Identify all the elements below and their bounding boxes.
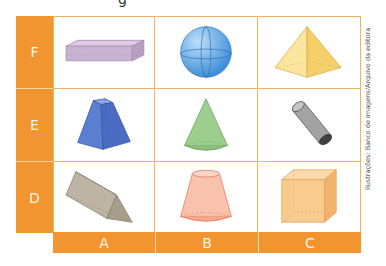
cylinder-icon [258,89,360,161]
square-pyramid-icon [258,17,360,88]
cell-a-f [53,16,155,89]
image-credit: Ilustrações: Banco de imagens/Arquivo da… [364,28,372,190]
triangular-prism-icon [54,162,154,232]
cut-off-heading-fragment: g [118,0,127,7]
frustum-of-cone-icon [155,162,257,232]
cube-icon [258,162,360,232]
row-header-e: E [16,88,53,161]
row-header-f: F [16,16,53,88]
column-header-b: B [155,232,258,253]
cell-b-f [154,16,258,89]
sphere-icon [155,17,257,88]
cone-icon [155,89,257,161]
cell-c-e [257,88,361,162]
frustum-of-pyramid-icon [54,89,154,161]
cell-b-d [154,161,258,233]
cell-a-d [53,161,155,233]
row-header-d: D [16,161,53,233]
cell-a-e [53,88,155,162]
column-header-a: A [53,232,155,253]
cell-c-d [257,161,361,233]
column-header-c: C [258,232,361,253]
cell-c-f [257,16,361,89]
cell-b-e [154,88,258,162]
rectangular-prism-icon [54,17,154,88]
